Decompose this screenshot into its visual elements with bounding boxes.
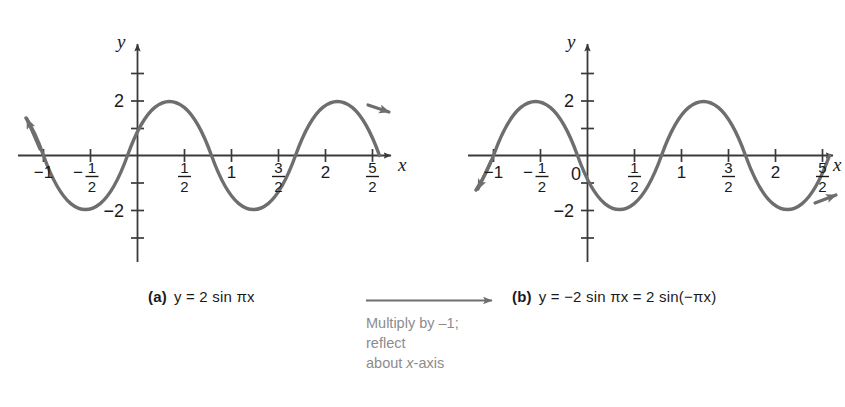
panel-a-y-axis-label: y	[115, 31, 126, 52]
panel-a-x-axis-label: x	[397, 154, 407, 175]
svg-text:2: 2	[724, 178, 732, 195]
transform-note-line3-pre: about	[366, 355, 406, 371]
svg-text:3: 3	[724, 159, 732, 176]
transform-note-line3-var: x	[406, 355, 413, 371]
svg-text:2: 2	[818, 178, 826, 195]
svg-text:3: 3	[274, 159, 282, 176]
svg-text:2: 2	[180, 178, 188, 195]
panel-b-ytick-2: 2	[564, 91, 574, 111]
panel-b-graph: y x 0 −1 − 1 2 1 2 1 3 2	[468, 31, 842, 262]
svg-text:5: 5	[368, 159, 376, 176]
panel-b-caption-tag: (b)	[512, 288, 532, 305]
panel-b-xtick-neg1: −1	[484, 163, 503, 182]
svg-text:1: 1	[180, 159, 188, 176]
panel-b-caption: (b)y = −2 sin πx = 2 sin(−πx)	[512, 288, 716, 305]
panel-a-curve-left-arrow	[27, 119, 40, 149]
transform-note-line3: about x-axis	[366, 353, 459, 373]
panel-a-xtick-neg1: −1	[34, 163, 53, 182]
panel-b-xtick-neg-half: − 1 2	[523, 159, 548, 195]
figure-stage: y x −1 − 1 2 1 2 1 3 2 2	[0, 0, 845, 407]
svg-text:2: 2	[274, 178, 282, 195]
panel-a-xtick-1: 1	[227, 163, 236, 182]
svg-text:1: 1	[538, 159, 546, 176]
transform-note-line2: reflect	[366, 333, 459, 353]
panel-b-curve-right-arrow	[815, 195, 836, 203]
svg-text:2: 2	[88, 178, 96, 195]
panel-a-caption-equation: y = 2 sin πx	[174, 288, 255, 305]
panel-b-origin-label: 0	[571, 164, 581, 184]
panel-a-graph: y x −1 − 1 2 1 2 1 3 2 2	[18, 31, 407, 262]
panel-a-xtick-three-halves: 3 2	[272, 159, 285, 195]
panel-b-y-axis-label: y	[565, 31, 576, 52]
panel-b-xtick-half: 1 2	[628, 159, 641, 195]
transform-note-line3-post: -axis	[414, 355, 445, 371]
svg-text:5: 5	[818, 159, 826, 176]
panel-b-x-axis-label: x	[832, 154, 842, 175]
panel-a-xtick-half: 1 2	[178, 159, 191, 195]
panel-b-caption-equation: y = −2 sin πx = 2 sin(−πx)	[539, 288, 717, 305]
transform-note: Multiply by –1; reflect about x-axis	[366, 313, 459, 373]
svg-text:2: 2	[630, 178, 638, 195]
panel-a-caption: (a)y = 2 sin πx	[148, 288, 255, 305]
panel-b-xtick-1: 1	[677, 163, 686, 182]
panel-a-ytick-neg2: −2	[103, 201, 124, 221]
panel-b-xtick-2: 2	[771, 163, 780, 182]
panel-b-xtick-three-halves: 3 2	[722, 159, 735, 195]
transform-note-line1: Multiply by –1;	[366, 313, 459, 333]
svg-text:−: −	[73, 163, 83, 182]
svg-text:1: 1	[88, 159, 96, 176]
panel-a-ytick-2: 2	[114, 91, 124, 111]
svg-text:−: −	[523, 163, 533, 182]
panel-a-caption-tag: (a)	[148, 288, 167, 305]
panel-a-xtick-neg-half: − 1 2	[73, 159, 98, 195]
svg-text:2: 2	[538, 178, 546, 195]
panel-a-curve-right-arrow	[368, 105, 389, 112]
panel-a-xtick-2: 2	[321, 163, 330, 182]
panel-b-ytick-neg2: −2	[553, 201, 574, 221]
svg-text:2: 2	[368, 178, 376, 195]
panel-a-xtick-five-halves: 5 2	[366, 159, 379, 195]
svg-text:1: 1	[630, 159, 638, 176]
